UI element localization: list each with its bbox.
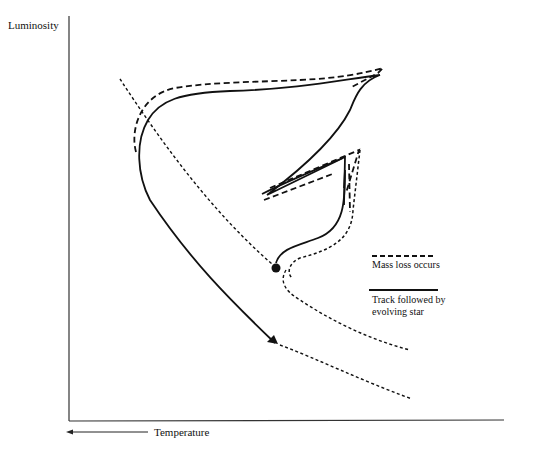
- axes: [69, 16, 504, 421]
- main-sequence-dotted: [120, 79, 412, 399]
- legend-solid-label-line1: Track followed by: [372, 294, 446, 305]
- y-axis-label: Luminosity: [8, 19, 59, 31]
- hr-diagram: [0, 0, 553, 453]
- x-axis-label: Temperature: [154, 426, 209, 438]
- temperature-arrow-icon: [66, 430, 148, 435]
- legend-solid-label-line2: evolving star: [372, 306, 424, 317]
- x-axis: [69, 420, 504, 421]
- star-position-dot: [272, 264, 281, 273]
- legend-dashed-label: Mass loss occurs: [372, 259, 440, 270]
- evolution-track-solid: [139, 75, 380, 343]
